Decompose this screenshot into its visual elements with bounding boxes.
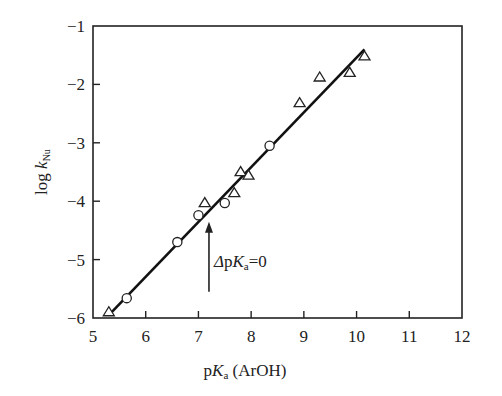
arrow-up-icon bbox=[205, 222, 213, 233]
x-tick-label: 8 bbox=[247, 327, 256, 346]
x-tick-label: 9 bbox=[300, 327, 309, 346]
y-tick-label: −5 bbox=[67, 251, 85, 270]
x-tick-label: 5 bbox=[89, 327, 98, 346]
circle-marker-icon bbox=[194, 211, 203, 220]
y-tick-label: −2 bbox=[67, 75, 85, 94]
y-tick-label: −3 bbox=[67, 134, 85, 153]
annotation-text: ΔpKa=0 bbox=[213, 252, 267, 272]
y-axis-label: log kNu bbox=[32, 149, 52, 195]
y-tick-label: −4 bbox=[67, 192, 86, 211]
triangle-marker-icon bbox=[235, 167, 246, 176]
x-tick-label: 7 bbox=[194, 327, 203, 346]
x-axis-ticks: 56789101112 bbox=[89, 311, 471, 346]
x-tick-label: 12 bbox=[454, 327, 471, 346]
y-axis-ticks: −1−2−3−4−5−6 bbox=[67, 17, 100, 328]
circle-marker-icon bbox=[122, 294, 131, 303]
circle-marker-icon bbox=[173, 237, 182, 246]
x-tick-label: 11 bbox=[401, 327, 417, 346]
triangle-marker-icon bbox=[294, 98, 305, 107]
triangle-marker-icon bbox=[199, 198, 210, 207]
y-tick-label: −6 bbox=[67, 309, 85, 328]
chart: 56789101112 −1−2−3−4−5−6 ΔpKa=0 pKa (ArO… bbox=[0, 0, 502, 396]
x-tick-label: 6 bbox=[141, 327, 150, 346]
triangle-marker-icon bbox=[314, 72, 325, 81]
circle-marker-icon bbox=[265, 141, 274, 150]
annotation-delta-pka: ΔpKa=0 bbox=[205, 222, 267, 292]
regression-line bbox=[109, 49, 365, 315]
y-tick-label: −1 bbox=[67, 17, 85, 36]
circle-marker-icon bbox=[220, 198, 229, 207]
x-tick-label: 10 bbox=[348, 327, 365, 346]
x-axis-label: pKa (ArOH) bbox=[204, 361, 287, 381]
